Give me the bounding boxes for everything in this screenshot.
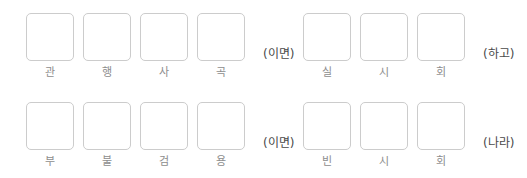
answer-cell: 실	[303, 13, 351, 79]
answer-box[interactable]	[26, 13, 74, 61]
worksheet: 관 행 사 곡 (이면) 실 시	[0, 0, 527, 178]
answer-cell: 곡	[197, 13, 245, 79]
answer-cell: 용	[197, 102, 245, 168]
hint-character: 시	[379, 155, 389, 168]
answer-cell: 부	[26, 102, 74, 168]
answer-box[interactable]	[83, 102, 131, 150]
answer-cell: 회	[417, 13, 465, 79]
answer-box[interactable]	[140, 102, 188, 150]
answer-box[interactable]	[417, 13, 465, 61]
answer-group: 부 불 검 용 (이면)	[26, 102, 294, 168]
answer-box[interactable]	[360, 102, 408, 150]
answer-cell: 회	[417, 102, 465, 168]
answer-box[interactable]	[26, 102, 74, 150]
answer-box[interactable]	[140, 13, 188, 61]
worksheet-row: 관 행 사 곡 (이면) 실 시	[0, 0, 527, 89]
hint-character: 회	[436, 155, 446, 168]
hint-character: 곡	[216, 66, 226, 79]
meaning-label: (이면)	[263, 136, 294, 150]
answer-group: 빈 시 회 (나라)	[303, 102, 514, 168]
answer-group: 관 행 사 곡 (이면)	[26, 13, 294, 79]
answer-cell: 검	[140, 102, 188, 168]
hint-character: 실	[322, 66, 332, 79]
meaning-label: (하고)	[483, 47, 514, 61]
hint-character: 검	[159, 155, 169, 168]
hint-character: 시	[379, 66, 389, 79]
answer-box[interactable]	[83, 13, 131, 61]
meaning-label: (나라)	[483, 136, 514, 150]
answer-box[interactable]	[417, 102, 465, 150]
answer-group: 실 시 회 (하고)	[303, 13, 514, 79]
answer-cell: 관	[26, 13, 74, 79]
answer-box[interactable]	[360, 13, 408, 61]
worksheet-row: 부 불 검 용 (이면) 빈 시	[0, 89, 527, 178]
answer-cell: 시	[360, 102, 408, 168]
answer-cell: 불	[83, 102, 131, 168]
hint-character: 용	[216, 155, 226, 168]
answer-cell: 빈	[303, 102, 351, 168]
answer-cell: 행	[83, 13, 131, 79]
hint-character: 관	[45, 66, 55, 79]
answer-box[interactable]	[303, 13, 351, 61]
hint-character: 부	[45, 155, 55, 168]
hint-character: 사	[159, 66, 169, 79]
hint-character: 빈	[322, 155, 332, 168]
answer-cell: 사	[140, 13, 188, 79]
hint-character: 행	[102, 66, 112, 79]
answer-box[interactable]	[197, 102, 245, 150]
answer-cell: 시	[360, 13, 408, 79]
answer-box[interactable]	[197, 13, 245, 61]
hint-character: 불	[102, 155, 112, 168]
hint-character: 회	[436, 66, 446, 79]
meaning-label: (이면)	[263, 47, 294, 61]
answer-box[interactable]	[303, 102, 351, 150]
